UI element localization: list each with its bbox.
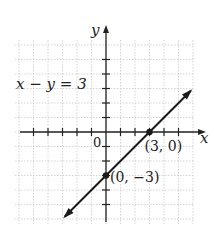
x-axis-label: x [200, 129, 209, 147]
y-axis-arrow-icon [103, 25, 109, 33]
axes [20, 25, 206, 222]
y-axis-label: y [90, 21, 100, 39]
point-label: (3, 0) [145, 138, 183, 154]
graph-canvas: x y 0 x − y = 3 (3, 0)(0, −3) [0, 0, 214, 232]
point-marker [103, 172, 109, 178]
point-marker [146, 129, 152, 135]
origin-label: 0 [93, 135, 101, 150]
equation-label: x − y = 3 [16, 75, 87, 93]
point-label: (0, −3) [110, 169, 159, 185]
